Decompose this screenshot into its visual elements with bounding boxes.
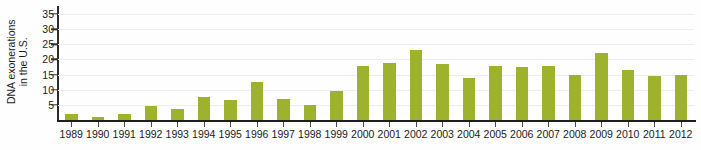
x-tick-label-1999: 1999 [325, 128, 348, 140]
bar-2006 [516, 67, 529, 120]
x-tick-mark-1990 [98, 122, 99, 127]
x-tick-label-2009: 2009 [590, 128, 613, 140]
x-tick-label-2004: 2004 [457, 128, 480, 140]
plot-area [58, 8, 694, 120]
x-tick-mark-1995 [230, 122, 231, 127]
bar-2012 [675, 75, 688, 120]
bar-2001 [383, 63, 396, 121]
bar-1997 [277, 99, 290, 120]
y-axis-title-line-1: DNA exonerations [5, 20, 17, 105]
x-tick-mark-2005 [495, 122, 496, 127]
x-tick-mark-2000 [363, 122, 364, 127]
x-tick-mark-1989 [71, 122, 72, 127]
x-tick-mark-1999 [336, 122, 337, 127]
x-tick-mark-2010 [628, 122, 629, 127]
x-tick-mark-1992 [151, 122, 152, 127]
bar-2003 [436, 64, 449, 120]
x-tick-mark-2009 [601, 122, 602, 127]
x-tick-mark-2006 [522, 122, 523, 127]
x-tick-mark-2008 [575, 122, 576, 127]
bar-2004 [463, 78, 476, 120]
bar-1995 [224, 100, 237, 120]
x-tick-label-2011: 2011 [643, 128, 666, 140]
x-tick-label-2003: 2003 [431, 128, 454, 140]
x-tick-mark-1994 [204, 122, 205, 127]
x-tick-label-1991: 1991 [113, 128, 136, 140]
x-tick-mark-1996 [257, 122, 258, 127]
x-tick-mark-1998 [310, 122, 311, 127]
x-tick-mark-2001 [389, 122, 390, 127]
x-tick-label-1997: 1997 [272, 128, 295, 140]
bar-1994 [198, 97, 211, 120]
x-tick-label-2005: 2005 [484, 128, 507, 140]
bar-2002 [410, 50, 423, 120]
x-tick-label-2000: 2000 [351, 128, 374, 140]
x-tick-mark-2002 [416, 122, 417, 127]
x-tick-label-2008: 2008 [563, 128, 586, 140]
x-tick-mark-2012 [681, 122, 682, 127]
x-tick-mark-2007 [548, 122, 549, 127]
x-tick-label-2001: 2001 [378, 128, 401, 140]
x-tick-mark-2004 [469, 122, 470, 127]
x-tick-label-1996: 1996 [245, 128, 268, 140]
x-tick-label-1989: 1989 [60, 128, 83, 140]
x-tick-label-1992: 1992 [139, 128, 162, 140]
bar-2008 [569, 75, 582, 120]
x-tick-label-1994: 1994 [192, 128, 215, 140]
bar-2005 [489, 66, 502, 120]
x-tick-label-1990: 1990 [86, 128, 109, 140]
bar-2009 [595, 53, 608, 120]
x-tick-mark-1997 [283, 122, 284, 127]
x-tick-label-2007: 2007 [537, 128, 560, 140]
bar-1996 [251, 82, 264, 120]
x-tick-label-1998: 1998 [298, 128, 321, 140]
bar-1992 [145, 106, 158, 120]
x-tick-label-1995: 1995 [219, 128, 242, 140]
x-tick-label-2006: 2006 [510, 128, 533, 140]
bar-series [58, 8, 694, 120]
x-tick-label-2010: 2010 [616, 128, 639, 140]
x-tick-mark-1993 [177, 122, 178, 127]
x-tick-mark-2011 [654, 122, 655, 127]
x-tick-label-2002: 2002 [404, 128, 427, 140]
y-axis-title-line-2: in the U.S. [17, 37, 29, 86]
bar-2011 [648, 76, 661, 120]
x-axis-tick-marks [58, 122, 694, 127]
x-tick-label-1993: 1993 [166, 128, 189, 140]
x-tick-mark-2003 [442, 122, 443, 127]
bar-1999 [330, 91, 343, 120]
dna-exonerations-bar-chart: in the U.S. DNA exonerations 51015202530… [0, 0, 701, 150]
bar-1998 [304, 105, 317, 120]
bar-2007 [542, 66, 555, 120]
x-tick-label-2012: 2012 [669, 128, 692, 140]
bar-1993 [171, 109, 184, 120]
x-tick-mark-1991 [124, 122, 125, 127]
x-axis-tick-labels: 1989199019911992199319941995199619971998… [58, 128, 694, 144]
bar-2000 [357, 66, 370, 120]
bar-2010 [622, 70, 635, 120]
y-axis-title: in the U.S. DNA exonerations [0, 0, 34, 124]
